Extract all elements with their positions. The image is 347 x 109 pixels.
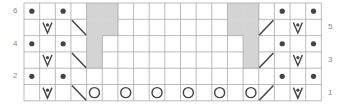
purl-dot-icon [29, 9, 34, 14]
knitting-chart [0, 0, 347, 109]
purl-dot-icon [29, 74, 34, 79]
no-stitch-cell [102, 3, 118, 20]
slip-v-icon [43, 22, 52, 33]
no-stitch-cell [87, 52, 103, 69]
yarn-over-icon [152, 88, 162, 98]
no-stitch-cell [243, 19, 259, 36]
slip-v-icon [293, 22, 302, 33]
decrease-left-icon [72, 86, 86, 101]
yarn-over-icon [246, 88, 256, 98]
no-stitch-cell [87, 19, 103, 36]
slip-v-icon [43, 88, 52, 99]
purl-dot-icon [311, 74, 316, 79]
slip-v-icon [293, 55, 302, 66]
decrease-left-icon [72, 53, 86, 68]
yarn-over-icon [215, 88, 225, 98]
no-stitch-cell [227, 3, 243, 20]
slip-v-icon [293, 88, 302, 99]
purl-dot-icon [311, 9, 316, 14]
decrease-right-icon [259, 86, 273, 101]
slip-v-icon [43, 55, 52, 66]
purl-dot-icon [61, 74, 66, 79]
no-stitch-cell [243, 3, 259, 20]
purl-dot-icon [61, 41, 66, 46]
row-label-right: 3 [328, 55, 332, 65]
row-label-right: 5 [328, 22, 332, 32]
purl-dot-icon [311, 41, 316, 46]
no-stitch-cell [87, 36, 103, 53]
purl-dot-icon [29, 41, 34, 46]
purl-dot-icon [280, 41, 285, 46]
decrease-right-icon [259, 53, 273, 68]
yarn-over-icon [89, 88, 99, 98]
chart-grid [0, 0, 347, 109]
decrease-right-icon [259, 20, 273, 35]
row-label-right: 1 [328, 88, 332, 98]
no-stitch-cell [227, 19, 243, 36]
purl-dot-icon [280, 74, 285, 79]
no-stitch-cell [87, 3, 103, 20]
yarn-over-icon [183, 88, 193, 98]
yarn-over-icon [121, 88, 131, 98]
purl-dot-icon [61, 9, 66, 14]
row-label-left: 6 [13, 6, 17, 16]
no-stitch-cell [243, 52, 259, 69]
purl-dot-icon [280, 9, 285, 14]
no-stitch-cell [102, 19, 118, 36]
row-label-left: 4 [13, 39, 17, 49]
decrease-left-icon [72, 20, 86, 35]
no-stitch-cell [243, 36, 259, 53]
row-label-left: 2 [13, 71, 17, 81]
